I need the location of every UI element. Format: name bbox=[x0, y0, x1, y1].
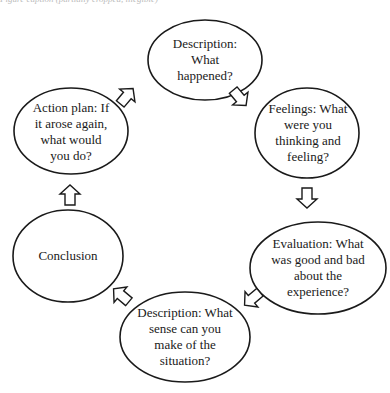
node-text-line: Evaluation: What bbox=[271, 236, 365, 252]
node-text-line: what would bbox=[33, 132, 110, 148]
node-text-line: Description: What bbox=[137, 305, 232, 321]
node-text-line: happened? bbox=[173, 68, 237, 84]
node-feelings: Feelings: What were you thinking and fee… bbox=[255, 90, 361, 176]
node-text-line: Feelings: What bbox=[269, 101, 348, 117]
node-text-line: Action plan: If bbox=[33, 100, 110, 116]
node-text-line: experience? bbox=[271, 284, 365, 300]
node-text-line: thinking and bbox=[269, 133, 348, 149]
node-text-line: feeling? bbox=[269, 149, 348, 165]
node-text-line: Description: bbox=[173, 36, 237, 52]
node-text-line: were you bbox=[269, 117, 348, 133]
reflective-cycle-diagram: Figure caption (partially cropped, illeg… bbox=[0, 0, 390, 393]
node-text-line: What bbox=[173, 52, 237, 68]
node-description: Description: What happened? bbox=[150, 22, 260, 98]
node-analysis: Description: What sense can you make of … bbox=[120, 294, 250, 380]
node-conclusion: Conclusion bbox=[13, 212, 123, 300]
arrow-feelings-to-evaluation-icon bbox=[297, 188, 317, 208]
node-text-line: about the bbox=[271, 268, 365, 284]
node-evaluation: Evaluation: What was good and bad about … bbox=[250, 224, 386, 312]
node-text-line: it arose again, bbox=[33, 116, 110, 132]
node-text-line: situation? bbox=[137, 353, 232, 369]
arrow-conclusion-to-action-icon bbox=[60, 185, 80, 205]
node-text-line: Conclusion bbox=[38, 248, 97, 264]
node-text-line: you do? bbox=[33, 148, 110, 164]
node-action-plan: Action plan: If it arose again, what wou… bbox=[15, 90, 127, 174]
node-text-line: make of the bbox=[137, 337, 232, 353]
node-text-line: sense can you bbox=[137, 321, 232, 337]
node-text-line: was good and bad bbox=[271, 252, 365, 268]
